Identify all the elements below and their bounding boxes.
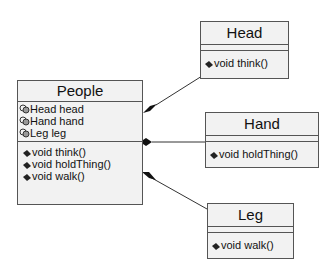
method-icon bbox=[23, 172, 32, 180]
attribute-row[interactable]: Leg leg bbox=[18, 127, 142, 139]
composition-diamond-leg bbox=[142, 172, 156, 180]
class-name: People bbox=[18, 81, 142, 102]
operation-row[interactable]: void holdThing() bbox=[206, 148, 318, 160]
method-icon bbox=[23, 160, 32, 168]
composition-diamond-head bbox=[143, 104, 157, 113]
operation-row[interactable]: void walk() bbox=[208, 239, 293, 251]
operation-row[interactable]: void think() bbox=[201, 57, 288, 69]
operations-compartment: void holdThing() bbox=[206, 142, 318, 163]
method-icon bbox=[23, 148, 32, 156]
operations-compartment: void think() void holdThing() void walk(… bbox=[18, 142, 142, 185]
method-icon bbox=[210, 150, 219, 158]
class-name: Hand bbox=[206, 113, 318, 136]
operation-row[interactable]: void think() bbox=[18, 146, 142, 158]
class-head[interactable]: Head void think() bbox=[200, 21, 289, 79]
operation-row[interactable]: void walk() bbox=[18, 170, 142, 182]
attributes-compartment: Head head Hand hand Leg leg bbox=[18, 102, 142, 142]
operation-row[interactable]: void holdThing() bbox=[18, 158, 142, 170]
attribute-row[interactable]: Head head bbox=[18, 103, 142, 115]
class-people[interactable]: People Head head Hand hand Leg leg void … bbox=[17, 80, 143, 205]
operations-compartment: void walk() bbox=[208, 233, 293, 254]
operations-compartment: void think() bbox=[201, 51, 288, 72]
field-icon bbox=[19, 104, 30, 114]
class-name: Leg bbox=[208, 204, 293, 227]
class-name: Head bbox=[201, 22, 288, 45]
method-icon bbox=[212, 241, 221, 249]
class-hand[interactable]: Hand void holdThing() bbox=[205, 112, 319, 168]
field-icon bbox=[19, 116, 30, 126]
field-icon bbox=[19, 128, 30, 138]
attribute-row[interactable]: Hand hand bbox=[18, 115, 142, 127]
method-icon bbox=[205, 59, 214, 67]
class-leg[interactable]: Leg void walk() bbox=[207, 203, 294, 259]
